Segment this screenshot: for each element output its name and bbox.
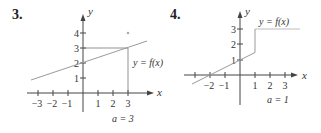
a-value-label: a = 3 [112,113,134,124]
y-tick-label: 1 [74,73,79,84]
y-tick-label: 2 [231,39,236,50]
y-axis-label: y [87,5,93,17]
y-tick-label: 4 [74,28,79,39]
y-tick-label: 3 [231,24,236,35]
isolated-point [127,32,130,35]
x-tick-label: 3 [283,80,288,91]
x-tick-label: −1 [62,98,73,109]
x-tick-label: 2 [268,80,273,91]
x-tick-label: −3 [32,98,43,109]
graph-panel-3: 3. x y −3 −2 −1 1 2 3 [0,0,160,133]
a-value-label: a = 1 [267,94,289,105]
curve-label: y = f(x) [258,16,290,28]
y-axis-label: y [244,5,250,17]
graph-4-plot: x y −2 −1 1 2 3 1 2 3 [160,0,321,133]
x-axis-arrow-icon [291,73,298,78]
x-tick-label: 1 [96,98,101,109]
curve-label: y = f(x) [132,57,164,69]
x-tick-label: −2 [204,80,215,91]
y-tick-label: 2 [74,58,79,69]
graph-panel-4: 4. x y −2 −1 1 2 3 [160,0,321,133]
x-axis-arrow-icon [147,91,154,96]
x-tick-label: 2 [111,98,116,109]
x-tick-label: −1 [219,80,230,91]
x-tick-label: 1 [253,80,258,91]
x-tick-label: −2 [47,98,58,109]
x-tick-label: 3 [126,98,131,109]
graph-3-plot: x y −3 −2 −1 1 2 3 1 2 3 [0,0,160,133]
y-tick-label: 3 [74,43,79,54]
function-line [31,41,147,80]
x-axis-label: x [301,69,307,81]
y-axis-arrow-icon [81,14,86,21]
y-axis-arrow-icon [238,11,243,18]
